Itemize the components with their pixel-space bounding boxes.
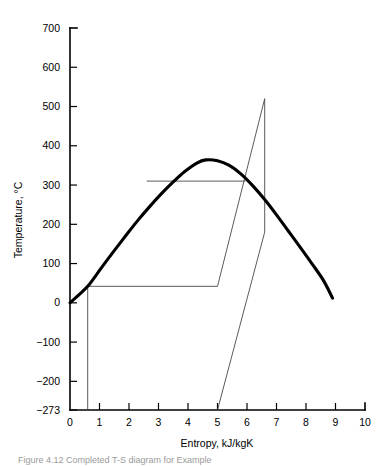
y-axis-ticks	[70, 67, 77, 410]
y-tick-label-600: 600	[42, 61, 60, 73]
x-tick-label-2: 2	[126, 416, 132, 428]
y-tick-label-500: 500	[42, 100, 60, 112]
x-tick-label-7: 7	[274, 416, 280, 428]
x-tick-label-6: 6	[244, 416, 250, 428]
figure-caption: Figure 4.12 Completed T-S diagram for Ex…	[18, 455, 211, 465]
rankine-cycle-path	[88, 99, 265, 410]
plot-axes	[70, 28, 365, 410]
x-axis-tick-labels: 012345678910	[67, 416, 371, 428]
y-tick-label-300: 300	[42, 179, 60, 191]
y-tick-label-400: 400	[42, 139, 60, 151]
y-tick-label-100: 100	[42, 257, 60, 269]
x-tick-label-0: 0	[67, 416, 73, 428]
y-tick-label--273: −273	[36, 404, 60, 416]
x-tick-label-10: 10	[359, 416, 371, 428]
y-axis-title: Temperature, °C	[12, 181, 24, 258]
y-tick-label-200: 200	[42, 218, 60, 230]
ts-diagram-chart: −273−200−1000100200300400500600700 01234…	[0, 0, 380, 466]
cycle-path-group	[88, 99, 265, 410]
x-tick-label-5: 5	[215, 416, 221, 428]
x-tick-label-4: 4	[185, 416, 191, 428]
x-tick-label-9: 9	[333, 416, 339, 428]
y-tick-label--200: −200	[36, 375, 60, 387]
y-axis-tick-labels: −273−200−1000100200300400500600700	[36, 22, 60, 416]
x-tick-label-1: 1	[97, 416, 103, 428]
figure-container: −273−200−1000100200300400500600700 01234…	[0, 0, 380, 466]
x-tick-label-3: 3	[156, 416, 162, 428]
x-axis-title: Entropy, kJ/kgK	[181, 437, 254, 449]
y-tick-label--100: −100	[36, 336, 60, 348]
y-tick-label-0: 0	[54, 296, 60, 308]
x-tick-label-8: 8	[303, 416, 309, 428]
y-tick-label-700: 700	[42, 22, 60, 34]
